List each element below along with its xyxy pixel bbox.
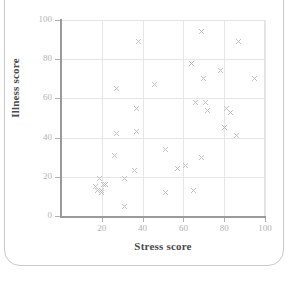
data-point-marker (135, 38, 142, 45)
y-tick-label: 40 (26, 132, 52, 143)
data-point-marker (221, 124, 228, 131)
y-tick-label: 20 (26, 171, 52, 182)
x-tick-mark (265, 218, 266, 222)
data-point-marker (162, 146, 169, 153)
x-tick-label: 40 (128, 223, 158, 234)
x-axis-title: Stress score (61, 240, 265, 252)
data-point-marker (198, 154, 205, 161)
data-point-marker (217, 67, 224, 74)
y-tick-label: 0 (26, 210, 52, 221)
data-point-marker (162, 189, 169, 196)
data-point-marker (98, 189, 105, 196)
data-point-marker (174, 165, 181, 172)
scatter-chart: 20406080100 020406080100 Stress score Il… (0, 0, 293, 281)
x-tick-label: 60 (168, 223, 198, 234)
gridline-horizontal (61, 177, 265, 178)
figure-page: 20406080100 020406080100 Stress score Il… (0, 0, 293, 281)
y-tick-label: 80 (26, 53, 52, 64)
data-point-marker (133, 105, 140, 112)
data-point-marker (113, 85, 120, 92)
x-tick-label: 100 (250, 223, 280, 234)
data-point-marker (200, 75, 207, 82)
y-axis-spine (60, 19, 62, 217)
plot-area (61, 20, 265, 216)
data-point-marker (192, 99, 199, 106)
data-point-marker (202, 99, 209, 106)
data-point-marker (188, 60, 195, 67)
gridline-vertical (265, 20, 266, 216)
x-axis-spine (60, 216, 266, 218)
data-point-marker (121, 203, 128, 210)
gridline-vertical (183, 20, 184, 216)
data-point-marker (251, 75, 258, 82)
gridline-horizontal (61, 98, 265, 99)
x-tick-mark (183, 218, 184, 222)
data-point-marker (133, 128, 140, 135)
x-tick-label: 20 (87, 223, 117, 234)
data-point-marker (227, 109, 234, 116)
data-point-marker (131, 167, 138, 174)
gridline-horizontal (61, 20, 265, 21)
y-axis-title: Illness score (9, 43, 21, 133)
data-point-marker (111, 152, 118, 159)
y-tick-label: 100 (26, 14, 52, 25)
data-point-marker (121, 175, 128, 182)
data-point-marker (235, 38, 242, 45)
data-point-marker (113, 130, 120, 137)
x-tick-mark (102, 218, 103, 222)
data-point-marker (233, 132, 240, 139)
data-point-marker (204, 107, 211, 114)
data-point-marker (151, 81, 158, 88)
x-tick-mark (224, 218, 225, 222)
data-point-marker (102, 181, 109, 188)
data-point-marker (190, 187, 197, 194)
gridline-vertical (224, 20, 225, 216)
x-tick-mark (143, 218, 144, 222)
data-point-marker (198, 28, 205, 35)
data-point-marker (182, 162, 189, 169)
gridline-vertical (143, 20, 144, 216)
gridline-horizontal (61, 59, 265, 60)
x-tick-label: 80 (209, 223, 239, 234)
y-tick-label: 60 (26, 92, 52, 103)
